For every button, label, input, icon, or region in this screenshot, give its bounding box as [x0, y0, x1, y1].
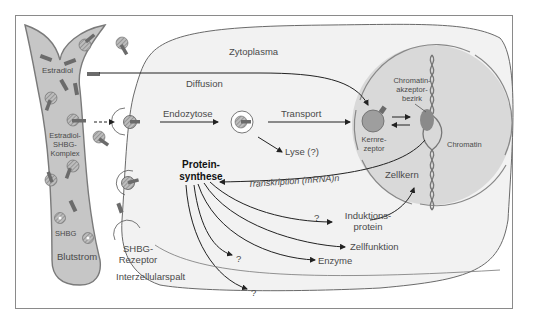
label-shbg-rezeptor: SHBG- Rezeptor [116, 243, 160, 265]
label-line: Induktions- [338, 210, 398, 221]
label-interzellularspalt: Interzellularspalt [116, 271, 185, 282]
label-question-1: ? [314, 212, 319, 223]
label-line: zeptor [356, 144, 392, 153]
label-estradiol: Estradiol [42, 66, 73, 75]
label-blutstrom: Blutstrom [57, 251, 97, 262]
label-line: protein [338, 221, 398, 232]
label-transport: Transport [281, 108, 321, 119]
label-line: synthese [176, 171, 226, 183]
label-line: SHBG- [40, 140, 90, 149]
label-line: SHBG- [116, 243, 160, 254]
label-line: bezirk [385, 94, 439, 103]
label-line: Rezeptor [116, 254, 160, 265]
label-chromatin: Chromatin [447, 140, 482, 149]
label-line: Estradiol- [40, 131, 90, 140]
label-zellfunktion: Zellfunktion [350, 241, 399, 252]
label-line: Chromatin- [385, 76, 439, 85]
label-line: Komplex [40, 149, 90, 158]
label-endozytose: Endozytose [163, 108, 213, 119]
label-enzyme: Enzyme [318, 255, 352, 266]
label-chromatin-akzeptorbezirk: Chromatin- akzeptor- bezirk [385, 76, 439, 103]
label-zellkern: Zellkern [385, 169, 419, 180]
label-induktionsprotein: Induktions- protein [338, 210, 398, 232]
label-shbg: SHBG [55, 229, 76, 238]
label-proteinsynthese: Protein- synthese [176, 159, 226, 183]
label-estradiol-shbg-komplex: Estradiol- SHBG- Komplex [40, 131, 90, 158]
label-question-3: ? [251, 287, 256, 298]
label-question-2: ? [236, 253, 241, 264]
label-diffusion: Diffusion [186, 78, 223, 89]
kernrezeptor [362, 110, 384, 132]
label-line: Kernre- [356, 135, 392, 144]
chromatin-acceptor [420, 109, 434, 131]
label-line: Protein- [176, 159, 226, 171]
label-zytoplasma: Zytoplasma [229, 46, 278, 57]
label-kernrezeptor: Kernre- zeptor [356, 135, 392, 153]
label-lyse: Lyse (?) [285, 146, 319, 157]
label-line: akzeptor- [385, 85, 439, 94]
endosome [231, 111, 253, 133]
